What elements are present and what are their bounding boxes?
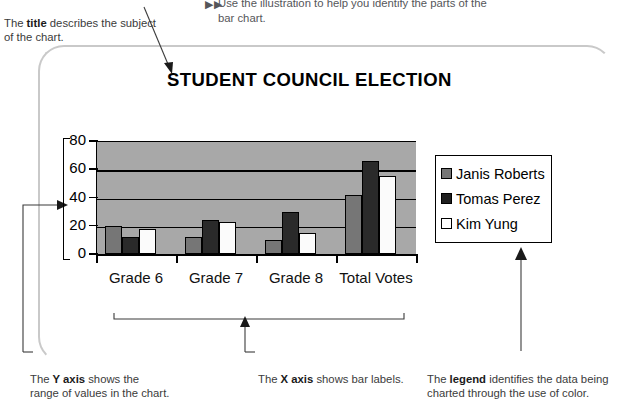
y-axis-tick-label: 80 <box>56 131 86 148</box>
legend-item: Kim Yung <box>441 211 551 236</box>
bar <box>202 220 219 254</box>
x-axis-tick <box>176 254 178 263</box>
bar <box>139 229 156 254</box>
bar <box>362 161 379 254</box>
y-axis-tick-label: 0 <box>56 244 86 261</box>
bar <box>282 212 299 254</box>
x-axis-labels: Grade 6Grade 7Grade 8Total Votes <box>96 268 426 314</box>
legend-label: Janis Roberts <box>456 166 545 182</box>
bar <box>122 237 139 254</box>
x-axis-label: Grade 8 <box>250 268 342 287</box>
chart-plot-area <box>96 141 416 254</box>
annotation-title-note: The title describes the subject of the c… <box>4 2 164 45</box>
y-axis-tick <box>89 225 98 227</box>
instruction-text: Use the illustration to help you identif… <box>218 0 618 26</box>
annotation-legend-term: legend <box>450 373 486 385</box>
annotation-xaxis-term: X axis <box>281 373 314 385</box>
legend-item: Tomas Perez <box>441 186 551 211</box>
x-axis-tick <box>256 254 258 263</box>
legend-color-swatch <box>441 193 452 204</box>
x-axis-label: Grade 7 <box>170 268 262 287</box>
bar <box>185 237 202 254</box>
annotation-yaxis-prefix: The <box>30 373 53 385</box>
y-axis-tick <box>89 168 98 170</box>
y-axis-tick <box>89 197 98 199</box>
bar <box>219 222 236 254</box>
legend-color-swatch <box>441 218 452 229</box>
x-axis-label: Total Votes <box>330 268 422 287</box>
annotation-yaxis-term: Y axis <box>53 373 85 385</box>
bar <box>379 176 396 254</box>
x-axis-tick <box>96 254 98 263</box>
annotation-legend-note: The legend identifies the data being cha… <box>427 358 627 401</box>
x-axis-tick <box>416 254 418 263</box>
annotation-title-term: title <box>27 17 47 29</box>
annotation-yaxis-note: The Y axis shows the range of values in … <box>30 358 170 401</box>
annotation-title-prefix: The <box>4 17 27 29</box>
y-axis-tick <box>89 140 98 142</box>
bar <box>105 226 122 254</box>
chart-title: STUDENT COUNCIL ELECTION <box>167 69 452 91</box>
chart-legend: Janis RobertsTomas PerezKim Yung <box>435 155 552 243</box>
legend-color-swatch <box>441 168 452 179</box>
annotation-xaxis-note: The X axis shows bar labels. <box>258 358 408 386</box>
y-axis-tick-label: 60 <box>56 159 86 176</box>
y-axis-tick-label: 40 <box>56 188 86 205</box>
bar <box>265 240 282 254</box>
illustration-page: ▶▶ Use the illustration to help you iden… <box>0 0 628 409</box>
legend-label: Kim Yung <box>456 216 518 232</box>
legend-label: Tomas Perez <box>456 191 541 207</box>
bar <box>299 233 316 254</box>
bar <box>345 195 362 254</box>
x-axis-label: Grade 6 <box>90 268 182 287</box>
annotation-legend-prefix: The <box>427 373 450 385</box>
y-axis-tick-label: 20 <box>56 216 86 233</box>
annotation-xaxis-prefix: The <box>258 373 281 385</box>
legend-item: Janis Roberts <box>441 161 551 186</box>
annotation-xaxis-suffix: shows bar labels. <box>313 373 403 385</box>
x-axis-tick <box>336 254 338 263</box>
